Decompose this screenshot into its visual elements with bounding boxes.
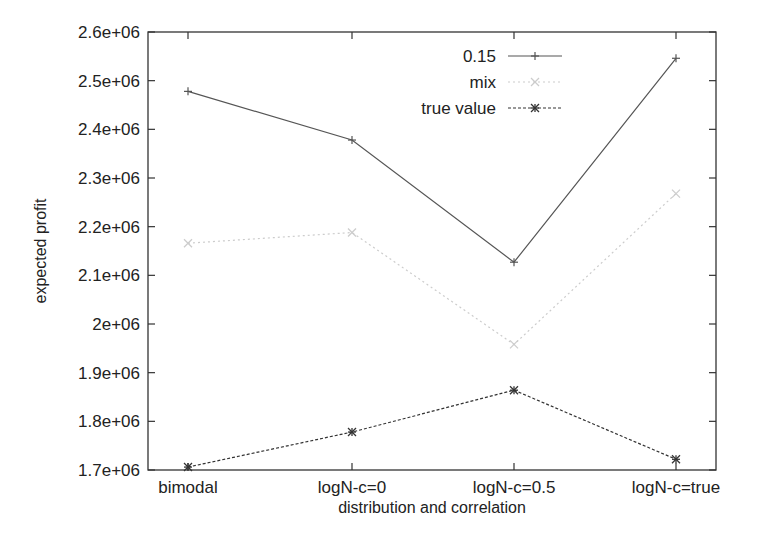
y-tick-label: 2.1e+06 (78, 266, 140, 285)
legend-label: 0.15 (463, 47, 496, 66)
y-axis: 1.7e+061.8e+061.9e+062e+062.1e+062.2e+06… (78, 23, 716, 480)
legend-marker-icon (531, 78, 539, 86)
line-chart: 1.7e+061.8e+061.9e+062e+062.1e+062.2e+06… (0, 0, 759, 550)
legend-label: mix (470, 73, 497, 92)
legend-marker-icon (531, 52, 539, 60)
x-axis-label: distribution and correlation (338, 499, 526, 516)
series-0-15 (184, 54, 680, 266)
y-tick-label: 1.8e+06 (78, 412, 140, 431)
legend-marker-icon (531, 104, 539, 112)
y-tick-label: 1.7e+06 (78, 461, 140, 480)
y-axis-label: expected profit (32, 198, 49, 304)
series-mix (184, 190, 680, 349)
series-true-value (184, 386, 680, 471)
x-tick-label: bimodal (158, 478, 218, 497)
y-tick-label: 2.4e+06 (78, 120, 140, 139)
y-tick-label: 2.3e+06 (78, 169, 140, 188)
legend-label: true value (421, 99, 496, 118)
x-tick-label: logN-c=0 (318, 478, 387, 497)
legend: 0.15mixtrue value (421, 47, 562, 118)
plot-area (148, 32, 716, 470)
y-tick-label: 2.5e+06 (78, 72, 140, 91)
x-tick-label: logN-c=true (632, 478, 720, 497)
y-tick-label: 2.2e+06 (78, 218, 140, 237)
y-tick-label: 1.9e+06 (78, 364, 140, 383)
y-tick-label: 2e+06 (92, 315, 140, 334)
x-tick-label: logN-c=0.5 (473, 478, 556, 497)
y-tick-label: 2.6e+06 (78, 23, 140, 42)
